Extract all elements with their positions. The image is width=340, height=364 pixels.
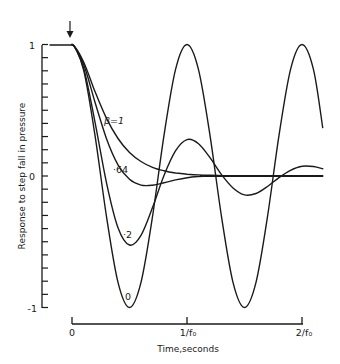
curve-label-beta-064: ·64	[113, 164, 128, 175]
curve-label-beta-02: ·2	[123, 229, 132, 240]
x-tick-label-1: 1/f₀	[180, 327, 197, 338]
y-axis-ticks	[42, 45, 48, 308]
x-axis-title: Time,seconds	[156, 344, 219, 354]
x-tick-label-0: 0	[69, 327, 75, 338]
curve-beta-02	[72, 45, 323, 246]
y-tick-label-1: 1	[29, 40, 35, 51]
step-arrow-icon	[67, 21, 74, 38]
curve-label-beta-1: β=1	[103, 115, 124, 126]
curve-label-beta-0: 0	[125, 291, 131, 302]
x-tick-label-2: 2/f₀	[296, 327, 313, 338]
y-tick-label-0: 0	[29, 171, 35, 182]
step-response-chart: 1 0 -1 Response to step fall in pressure…	[0, 0, 340, 364]
curves-group	[72, 45, 323, 308]
y-axis-title: Response to step fall in pressure	[17, 102, 27, 249]
y-tick-label-neg1: -1	[28, 303, 37, 314]
